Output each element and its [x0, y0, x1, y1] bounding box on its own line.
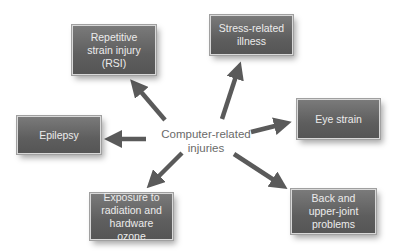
arrow-to-stress: [222, 70, 238, 119]
node-stress-line1: Stress-related: [219, 22, 284, 35]
node-exposure-line3: hardware ozone: [94, 217, 169, 243]
node-stress-line2: illness: [219, 35, 284, 48]
node-exposure-line2: radiation and: [94, 204, 169, 217]
node-rsi-line3: (RSI): [87, 57, 141, 70]
node-exposure: Exposure to radiation and hardware ozone: [90, 193, 173, 240]
arrow-to-rsi: [136, 86, 165, 120]
node-back-line1: Back and: [309, 192, 359, 205]
node-rsi: Repetitive strain injury (RSI): [72, 25, 156, 75]
center-label-line2: injuries: [148, 141, 264, 155]
node-epilepsy-line1: Epilepsy: [39, 129, 79, 142]
center-label: Computer-related injuries: [148, 127, 264, 155]
arrow-to-back: [234, 154, 280, 184]
node-eye-strain: Eye strain: [297, 99, 380, 139]
node-epilepsy: Epilepsy: [17, 116, 101, 154]
node-back-line3: problems: [309, 218, 359, 231]
node-back: Back and upper-joint problems: [291, 189, 376, 234]
node-eye-line1: Eye strain: [315, 113, 362, 126]
node-rsi-line2: strain injury: [87, 44, 141, 57]
arrow-to-exposure: [153, 153, 182, 182]
node-stress: Stress-related illness: [210, 15, 293, 55]
center-label-line1: Computer-related: [148, 127, 264, 141]
node-back-line2: upper-joint: [309, 205, 359, 218]
node-rsi-line1: Repetitive: [87, 31, 141, 44]
node-exposure-line1: Exposure to: [94, 191, 169, 204]
